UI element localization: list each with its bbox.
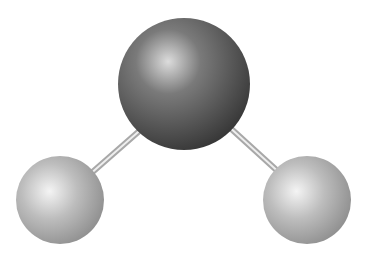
atom-hydrogen-left xyxy=(16,156,104,244)
bond-left xyxy=(88,125,146,176)
atom-oxygen-center xyxy=(118,18,250,150)
bond-right xyxy=(226,124,283,176)
atom-hydrogen-right xyxy=(263,156,351,244)
molecule-canvas xyxy=(0,0,371,265)
molecule-diagram xyxy=(0,0,371,265)
